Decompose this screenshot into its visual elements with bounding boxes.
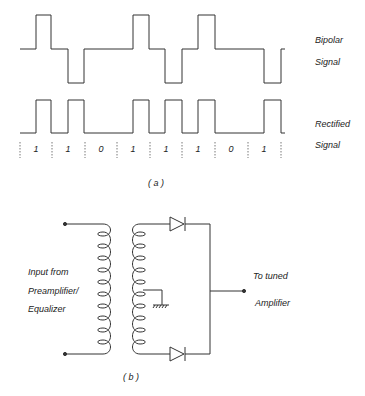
bit-label: 0	[91, 144, 111, 154]
bit-label: 1	[188, 144, 208, 154]
rectified-signal-label: Signal	[315, 140, 340, 150]
output-terminal	[242, 289, 245, 292]
bit-label: 1	[58, 144, 78, 154]
output-label-line2: Amplifier	[255, 298, 290, 308]
bipolar-signal-label: Signal	[315, 57, 340, 67]
bit-label: 0	[221, 144, 241, 154]
output-label-line1: To tuned	[253, 271, 288, 281]
bit-label: 1	[254, 144, 274, 154]
figure-canvas	[0, 0, 365, 396]
rectified-waveform	[20, 100, 285, 133]
bipolar-waveform	[20, 15, 285, 83]
input-label-line3: Equalizer	[28, 304, 66, 314]
caption-b: ( b )	[123, 372, 139, 382]
caption-a: ( a )	[148, 178, 164, 188]
transformer-circuit	[63, 217, 245, 361]
secondary-coil	[133, 224, 146, 354]
bit-label: 1	[156, 144, 176, 154]
input-label-line2: Preamplifier/	[28, 286, 79, 296]
bit-label: 1	[26, 144, 46, 154]
input-label-line1: Input from	[28, 267, 69, 277]
bipolar-label: Bipolar	[315, 35, 343, 45]
primary-coil	[98, 224, 111, 354]
bit-label: 1	[123, 144, 143, 154]
diode-bottom	[170, 347, 184, 361]
diode-top	[170, 217, 184, 231]
rectified-label: Rectified	[315, 119, 350, 129]
